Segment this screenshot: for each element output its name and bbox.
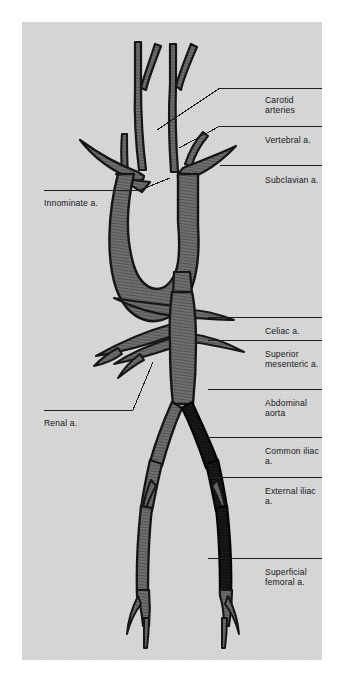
label-external-iliac: External iliac a.: [265, 486, 322, 506]
vessel-right-common-carotid: [135, 42, 161, 170]
leader-pointer-carotid: [157, 88, 220, 130]
vessel-left-popliteal-fork: [127, 590, 150, 648]
vessel-right-popliteal-fork: [220, 590, 239, 648]
vessel-right-common-iliac: [182, 402, 218, 468]
label-superior-mesenteric: Superior mesenteric a.: [265, 349, 319, 369]
label-carotid: Carotid arteries: [265, 95, 322, 115]
label-subclavian: Subclavian a.: [265, 175, 319, 185]
label-superficial-femoral: Superficial femoral a.: [265, 567, 307, 587]
label-abdominal-aorta: Abdominal aorta: [265, 398, 322, 418]
vessel-left-femoral: [137, 506, 152, 594]
label-renal: Renal a.: [44, 418, 77, 428]
vessel-left-common-iliac: [150, 402, 182, 466]
vessel-celiac-branch-right: [190, 310, 234, 320]
vessel-left-renal: [192, 334, 244, 352]
label-vertebral: Vertebral a.: [265, 135, 311, 145]
label-common-iliac: Common iliac a.: [265, 446, 322, 466]
diagram-panel: Carotid arteriesVertebral a.Subclavian a…: [22, 22, 322, 660]
vessel-right-femoral: [216, 506, 231, 594]
arterial-tree-artwork: [22, 22, 322, 660]
label-innominate: Innominate a.: [44, 198, 98, 208]
figure-root: Carotid arteriesVertebral a.Subclavian a…: [0, 0, 340, 681]
label-celiac: Celiac a.: [265, 326, 300, 336]
vessel-abdominal-aorta-trunk: [170, 292, 196, 404]
leader-pointer-renal: [133, 362, 153, 410]
